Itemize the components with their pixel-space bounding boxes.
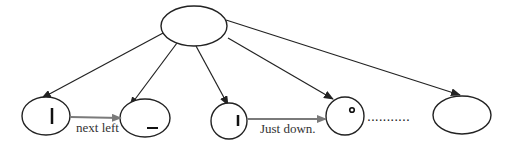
edge-root-child-4 [228, 38, 333, 99]
tree-diagram: next left Just down. ........... [0, 0, 506, 146]
arrow-next-left [70, 117, 121, 118]
ellipsis-dots: ........... [367, 108, 410, 124]
child-node-1 [22, 97, 70, 135]
child-node-3 [211, 103, 247, 139]
child-node-4 [326, 97, 364, 135]
edge-root-child-1 [42, 32, 165, 98]
root-node [161, 6, 227, 46]
child-node-2 [120, 99, 170, 137]
label-next-left: next left [76, 120, 119, 135]
edge-root-child-2 [130, 43, 177, 106]
child-node-5 [433, 96, 491, 134]
edge-root-child-3 [196, 46, 228, 105]
label-just-down: Just down. [260, 121, 316, 136]
